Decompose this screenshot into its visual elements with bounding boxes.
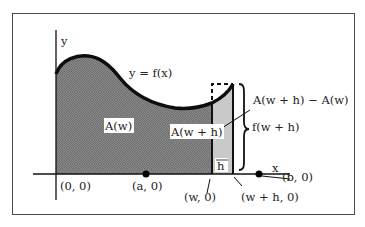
pointer-w-plus-h [234, 177, 242, 186]
label-area-w-plus-h: A(w + h) [170, 125, 222, 139]
label-origin: (0, 0) [60, 179, 91, 193]
brace-height [239, 84, 249, 170]
label-height: f(w + h) [252, 120, 299, 134]
label-difference: A(w + h) − A(w) [252, 93, 349, 107]
label-point-b: (b, 0) [282, 170, 313, 184]
y-axis-label: y [60, 34, 68, 48]
point-b [256, 171, 263, 178]
label-area-w: A(w) [104, 119, 132, 133]
label-point-w: (w, 0) [184, 190, 216, 204]
label-width-h: h [217, 159, 225, 173]
curve-label: y = f(x) [128, 66, 172, 80]
point-a [143, 171, 150, 178]
area-diagram: y x y = f(x) A(w) A(w + h) A(w + h) − A(… [0, 0, 365, 227]
x-axis-label: x [272, 161, 279, 175]
label-point-w-plus-h: (w + h, 0) [241, 190, 299, 204]
label-point-a: (a, 0) [132, 179, 162, 193]
